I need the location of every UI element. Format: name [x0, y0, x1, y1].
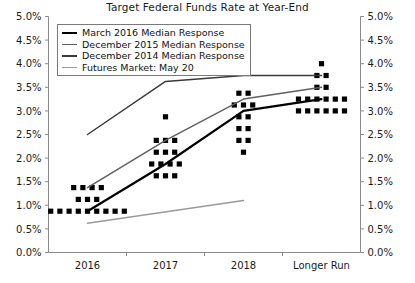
x-axis-tick-label: 2018	[231, 260, 256, 271]
scatter-dot	[48, 209, 53, 214]
y-axis-tick-label: 0.5%	[368, 224, 393, 235]
legend-item-label: December 2014 Median Response	[82, 50, 245, 62]
y-axis-tick-label: 3.0%	[16, 106, 41, 117]
legend-item-label: December 2015 Median Response	[82, 39, 245, 51]
scatter-dot	[305, 108, 310, 113]
legend-line-swatch-icon	[62, 67, 77, 69]
x-axis-labels: 201620172018Longer Run	[75, 260, 350, 271]
scatter-dot	[246, 126, 251, 131]
y-axis-tick-label: 4.0%	[16, 58, 41, 69]
scatter-dot	[122, 209, 127, 214]
scatter-dot	[177, 161, 182, 166]
scatter-dot	[296, 108, 301, 113]
scatter-dot	[172, 138, 177, 143]
scatter-dot	[333, 108, 338, 113]
scatter-dot	[57, 209, 62, 214]
y-axis-tick-label: 4.5%	[16, 35, 41, 46]
y-axis-tick-label: 1.0%	[368, 200, 393, 211]
x-axis-tick-label: 2016	[75, 260, 100, 271]
scatter-dot	[71, 185, 76, 190]
y-axis-tick-label: 4.5%	[368, 35, 393, 46]
y-axis-tick-label: 3.5%	[368, 82, 393, 93]
y-axis-tick-label: 0.0%	[368, 247, 393, 258]
y-axis-tick-label: 3.0%	[368, 106, 393, 117]
scatter-dot	[319, 61, 324, 66]
legend-item-label: Futures Market: May 20	[82, 62, 194, 74]
scatter-dot	[241, 102, 246, 107]
scatter-dot	[342, 97, 347, 102]
scatter-dot	[236, 91, 241, 96]
y-axis-tick-label: 2.0%	[368, 153, 393, 164]
series-line	[88, 99, 322, 211]
series-line	[88, 201, 244, 224]
y-axis-right-labels: 0.0%0.5%1.0%1.5%2.0%2.5%3.0%3.5%4.0%4.5%…	[368, 11, 393, 258]
scatter-dot	[80, 185, 85, 190]
scatter-dot	[342, 108, 347, 113]
scatter-dot	[324, 73, 329, 78]
scatter-dot	[172, 173, 177, 178]
scatter-dot	[163, 150, 168, 155]
scatter-dot	[314, 108, 319, 113]
legend-item: December 2014 Median Response	[62, 50, 245, 62]
scatter-dot	[154, 138, 159, 143]
scatter-dot	[324, 97, 329, 102]
y-axis-tick-label: 5.0%	[368, 11, 393, 22]
chart-legend: March 2016 Median ResponseDecember 2015 …	[57, 24, 251, 76]
legend-item: Futures Market: May 20	[62, 62, 245, 74]
scatter-dot	[246, 91, 251, 96]
scatter-dot	[103, 209, 108, 214]
legend-item: December 2015 Median Response	[62, 39, 245, 51]
scatter-dots	[48, 61, 347, 214]
y-axis-tick-label: 3.5%	[16, 82, 41, 93]
scatter-dot	[172, 150, 177, 155]
scatter-dot	[99, 185, 104, 190]
scatter-dot	[67, 209, 72, 214]
y-axis-tick-label: 2.0%	[16, 153, 41, 164]
y-axis-tick-label: 1.5%	[368, 176, 393, 187]
scatter-dot	[236, 138, 241, 143]
scatter-dot	[333, 97, 338, 102]
y-axis-tick-label: 2.5%	[16, 129, 41, 140]
scatter-dot	[94, 209, 99, 214]
scatter-dot	[76, 209, 81, 214]
scatter-dot	[236, 126, 241, 131]
scatter-dot	[250, 102, 255, 107]
legend-line-swatch-icon	[62, 55, 77, 57]
y-axis-left-labels: 0.0%0.5%1.0%1.5%2.0%2.5%3.0%3.5%4.0%4.5%…	[16, 11, 41, 258]
x-axis-tick-label: 2017	[153, 260, 178, 271]
scatter-dot	[85, 197, 90, 202]
scatter-dot	[154, 173, 159, 178]
scatter-dot	[246, 114, 251, 119]
scatter-dot	[76, 197, 81, 202]
scatter-dot	[324, 85, 329, 90]
legend-item: March 2016 Median Response	[62, 27, 245, 39]
scatter-dot	[246, 138, 251, 143]
scatter-dot	[149, 161, 154, 166]
series-lines	[88, 76, 322, 224]
chart-container: Target Federal Funds Rate at Year-End 0.…	[0, 0, 415, 283]
y-axis-tick-label: 2.5%	[368, 129, 393, 140]
scatter-dot	[324, 108, 329, 113]
legend-item-label: March 2016 Median Response	[82, 27, 224, 39]
scatter-dot	[241, 150, 246, 155]
x-axis-tick-label: Longer Run	[293, 260, 350, 271]
legend-line-swatch-icon	[62, 44, 77, 46]
y-axis-tick-label: 1.0%	[16, 200, 41, 211]
scatter-dot	[163, 173, 168, 178]
y-axis-tick-label: 0.0%	[16, 247, 41, 258]
scatter-dot	[154, 150, 159, 155]
y-axis-tick-label: 1.5%	[16, 176, 41, 187]
legend-line-swatch-icon	[62, 32, 77, 35]
scatter-dot	[113, 209, 118, 214]
y-axis-tick-label: 0.5%	[16, 224, 41, 235]
scatter-dot	[163, 114, 168, 119]
y-axis-tick-label: 4.0%	[368, 58, 393, 69]
scatter-dot	[296, 97, 301, 102]
y-axis-tick-label: 5.0%	[16, 11, 41, 22]
scatter-dot	[94, 197, 99, 202]
